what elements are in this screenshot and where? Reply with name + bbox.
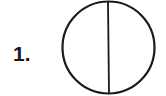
divided-circle-figure [0, 0, 166, 96]
vertical-diameter-line [108, 2, 109, 94]
